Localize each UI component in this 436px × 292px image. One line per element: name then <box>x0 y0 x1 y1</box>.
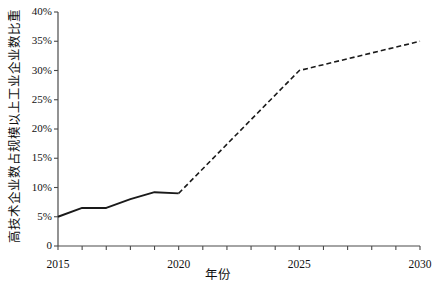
y-axis-title-wrapper: 高技术企业数占规模以上工业企业数比重 <box>5 1 21 251</box>
chart-plot-area <box>0 0 436 292</box>
data-series-group <box>58 41 420 217</box>
y-axis-title: 高技术企业数占规模以上工业企业数比重 <box>8 9 22 243</box>
x-tick-label: 2015 <box>28 254 88 268</box>
x-tick-label: 2020 <box>149 254 209 268</box>
series-line-0 <box>58 192 179 217</box>
x-tick-label: 2030 <box>390 254 436 268</box>
axis-lines <box>58 12 420 246</box>
x-axis-title: 年份 <box>0 268 436 282</box>
series-line-1 <box>179 41 420 193</box>
chart-figure: 05%10%15%20%25%30%35%40% 201520202025203… <box>0 0 436 292</box>
x-axis-ticks <box>58 246 420 250</box>
x-tick-label: 2025 <box>269 254 329 268</box>
